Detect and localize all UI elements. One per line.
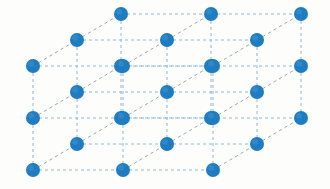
lattice-atom	[26, 59, 40, 73]
lattice-bond	[33, 144, 77, 170]
lattice-atom-highlight	[208, 61, 214, 67]
lattice-atom-body	[294, 7, 308, 21]
lattice-atom-highlight	[296, 9, 302, 15]
lattice-atom-highlight	[28, 165, 34, 171]
lattice-bond	[33, 92, 77, 118]
lattice-figure	[0, 0, 330, 189]
lattice-atom	[116, 59, 130, 73]
lattice-bond	[167, 14, 211, 40]
lattice-atom	[116, 111, 130, 125]
lattice-atom	[70, 137, 84, 151]
lattice-atom	[160, 85, 174, 99]
lattice-atom-body	[160, 137, 174, 151]
lattice-atom-highlight	[162, 87, 168, 93]
lattice-atom	[70, 85, 84, 99]
lattice-bond	[257, 66, 301, 92]
lattice-atom-highlight	[162, 139, 168, 145]
lattice-bond	[77, 118, 121, 144]
lattice-atom-highlight	[296, 61, 302, 67]
lattice-bond	[167, 118, 211, 144]
lattice-atom-body	[116, 163, 130, 177]
lattice-atom	[294, 59, 308, 73]
lattice-bond	[33, 40, 77, 66]
lattice-atom-highlight	[72, 35, 78, 41]
lattice-bond	[123, 144, 167, 170]
lattice-atom-body	[204, 7, 218, 21]
lattice-bond	[77, 14, 121, 40]
lattice-atom	[206, 111, 220, 125]
lattice-atom-body	[70, 33, 84, 47]
lattice-atom	[116, 163, 130, 177]
lattice-atom-highlight	[206, 9, 212, 15]
lattice-diagram	[0, 0, 330, 189]
lattice-atom-layer	[26, 7, 308, 177]
lattice-bond	[213, 144, 257, 170]
lattice-atom	[250, 137, 264, 151]
lattice-atom	[160, 33, 174, 47]
lattice-bond	[213, 92, 257, 118]
lattice-atom	[206, 59, 220, 73]
lattice-atom	[26, 111, 40, 125]
lattice-bond	[167, 66, 211, 92]
lattice-atom-body	[116, 111, 130, 125]
lattice-atom-highlight	[296, 113, 302, 119]
lattice-atom-highlight	[252, 87, 258, 93]
lattice-atom	[26, 163, 40, 177]
lattice-bond	[123, 92, 167, 118]
lattice-atom	[70, 33, 84, 47]
lattice-atom-highlight	[118, 113, 124, 119]
lattice-atom-body	[26, 59, 40, 73]
lattice-bond	[257, 118, 301, 144]
lattice-bond	[213, 40, 257, 66]
lattice-atom-body	[250, 137, 264, 151]
lattice-atom	[250, 33, 264, 47]
lattice-atom-body	[294, 59, 308, 73]
lattice-atom-body	[70, 137, 84, 151]
lattice-atom-body	[160, 33, 174, 47]
lattice-atom	[206, 163, 220, 177]
lattice-atom-body	[206, 163, 220, 177]
lattice-atom	[294, 7, 308, 21]
lattice-atom-body	[206, 111, 220, 125]
lattice-atom	[114, 7, 128, 21]
lattice-bond	[123, 40, 167, 66]
lattice-atom-body	[160, 85, 174, 99]
lattice-bond	[257, 14, 301, 40]
lattice-atom	[160, 137, 174, 151]
lattice-atom-body	[26, 111, 40, 125]
lattice-atom-body	[116, 59, 130, 73]
lattice-atom-highlight	[72, 139, 78, 145]
lattice-atom-body	[250, 85, 264, 99]
lattice-atom-highlight	[28, 113, 34, 119]
lattice-atom-highlight	[28, 61, 34, 67]
lattice-atom-body	[114, 7, 128, 21]
lattice-atom-highlight	[162, 35, 168, 41]
lattice-bond	[77, 66, 121, 92]
lattice-atom-highlight	[252, 35, 258, 41]
lattice-atom-highlight	[118, 165, 124, 171]
lattice-atom-body	[250, 33, 264, 47]
lattice-atom-highlight	[208, 113, 214, 119]
lattice-atom-highlight	[118, 61, 124, 67]
lattice-atom	[204, 7, 218, 21]
lattice-atom-body	[26, 163, 40, 177]
lattice-atom-body	[206, 59, 220, 73]
lattice-atom-body	[70, 85, 84, 99]
lattice-atom-highlight	[252, 139, 258, 145]
lattice-atom-highlight	[116, 9, 122, 15]
lattice-atom	[250, 85, 264, 99]
lattice-atom-highlight	[72, 87, 78, 93]
lattice-atom-highlight	[208, 165, 214, 171]
lattice-atom-body	[294, 111, 308, 125]
lattice-atom	[294, 111, 308, 125]
